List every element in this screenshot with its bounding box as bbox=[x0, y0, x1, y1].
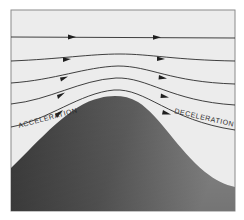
airflow-over-hill-diagram: ACCELERATION DECELERATION bbox=[0, 0, 244, 220]
